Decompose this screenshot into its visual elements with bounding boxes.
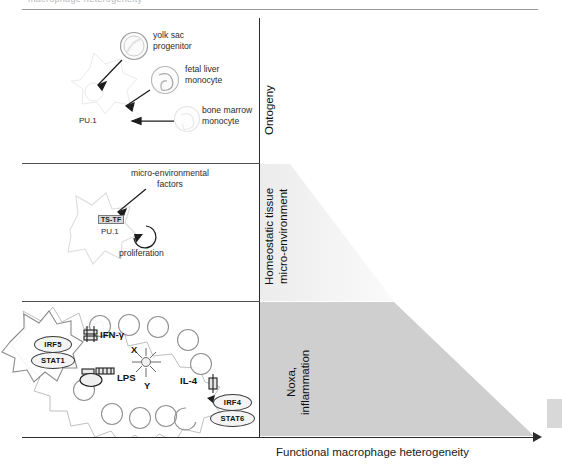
label-fetal-liver-monocyte: fetal liver monocyte: [185, 64, 222, 85]
panel-ontogeny: yolk sac progenitor fetal liver monocyte…: [22, 18, 260, 163]
right-edge-chip: [547, 399, 562, 428]
fetal-liver-line1: fetal liver: [185, 64, 219, 74]
micro-env-line1: micro-environmental: [131, 168, 209, 178]
panel-homeostatic: micro-environmental factors TS-TF PU.1 p…: [22, 164, 260, 301]
bone-marrow-line2: monocyte: [202, 116, 239, 126]
label-lps: LPS: [117, 372, 136, 384]
band-label-homeostatic-line1: Homeostatic tissue: [263, 187, 275, 284]
label-pu1-ontogeny: PU.1: [79, 116, 97, 126]
band-label-noxa-line1: Noxa,: [285, 367, 297, 397]
band-label-ontogeny: Ontogeny: [262, 62, 276, 158]
yolk-sac-line2: progenitor: [153, 41, 192, 51]
label-il-4: IL-4: [180, 375, 197, 387]
label-pu1-homeostatic: PU.1: [101, 227, 119, 237]
tf-stat6: STAT6: [210, 410, 255, 427]
label-yolk-sac-progenitor: yolk sac progenitor: [153, 30, 192, 51]
x-axis-line: [22, 437, 536, 438]
band-label-homeostatic: Homeostatic tissue micro-environment: [262, 176, 290, 296]
x-axis-label: Functional macrophage heterogeneity: [276, 446, 469, 458]
label-micro-environmental-factors: micro-environmental factors: [131, 168, 209, 189]
bone-marrow-line1: bone marrow: [202, 105, 252, 115]
macrophage-heterogeneity-figure: macrophage heterogeneity Functional macr…: [0, 0, 562, 466]
top-horizontal-rule: [22, 9, 538, 10]
band-label-noxa: Noxa, inflammation: [284, 330, 312, 434]
tf-stat1: STAT1: [31, 352, 75, 369]
band-label-noxa-line2: inflammation: [299, 349, 311, 414]
tf-tag-ts-tf: TS-TF: [98, 215, 124, 224]
label-factor-x: X: [131, 344, 137, 355]
label-factor-y: Y: [144, 380, 150, 391]
label-bone-marrow-monocyte: bone marrow monocyte: [202, 105, 252, 126]
panel-inflammation: IRF5 STAT1 IRF4 STAT6 IFN-γ LPS IL-4 X Y: [0, 302, 260, 437]
yolk-sac-line1: yolk sac: [153, 30, 184, 40]
label-ifn-gamma: IFN-γ: [100, 329, 124, 341]
tf-irf5: IRF5: [34, 336, 72, 353]
x-axis-arrowhead: [533, 432, 542, 442]
band-label-homeostatic-line2: micro-environment: [277, 188, 289, 283]
cut-off-header-text: macrophage heterogeneity: [28, 0, 528, 6]
micro-env-line2: factors: [157, 179, 183, 189]
label-proliferation: proliferation: [119, 248, 164, 259]
homeostatic-wedge-shape: [260, 164, 536, 301]
tf-irf4: IRF4: [213, 394, 252, 411]
fetal-liver-line2: monocyte: [185, 75, 222, 85]
